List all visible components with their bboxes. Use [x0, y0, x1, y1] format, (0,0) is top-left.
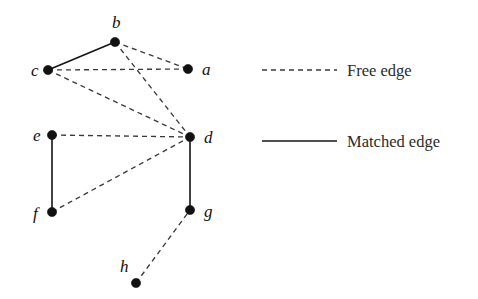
edge-c-d [48, 70, 190, 137]
vertex-label-h: h [120, 257, 129, 276]
vertex-label-f: f [33, 204, 40, 223]
vertex-e [47, 130, 56, 139]
vertex-f [47, 207, 56, 216]
edge-b-a [115, 42, 188, 69]
nodes-layer: bcaedfgh [31, 13, 213, 288]
graph-canvas: bcaedfgh Free edgeMatched edge [0, 0, 478, 299]
legend-label-free-edge: Free edge [347, 61, 412, 80]
edge-f-d [52, 137, 190, 212]
vertex-g [185, 205, 194, 214]
edge-c-a [48, 69, 188, 70]
vertex-d [185, 132, 194, 141]
vertex-c [43, 65, 52, 74]
edge-c-b [48, 42, 115, 70]
vertex-b [110, 37, 119, 46]
vertex-h [131, 278, 140, 287]
graph-figure: bcaedfgh Free edgeMatched edge [0, 0, 478, 299]
vertex-label-a: a [202, 60, 211, 79]
edges-layer [48, 42, 190, 283]
vertex-label-g: g [204, 202, 213, 221]
vertex-a [183, 64, 192, 73]
vertex-label-e: e [33, 126, 41, 145]
vertex-label-d: d [204, 128, 213, 147]
legend-layer: Free edgeMatched edge [262, 61, 440, 151]
vertex-label-b: b [112, 13, 121, 32]
legend-label-matched-edge: Matched edge [347, 132, 440, 151]
edge-e-d [52, 135, 190, 137]
edge-h-g [136, 210, 190, 283]
vertex-label-c: c [31, 61, 39, 80]
